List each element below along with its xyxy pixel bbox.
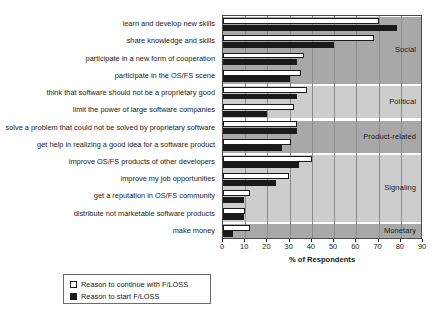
bar-start-5 (223, 111, 267, 117)
y-label-4: think that software should not be a prop… (47, 88, 215, 97)
bar-start-2 (223, 59, 297, 65)
bar-continue-0 (223, 18, 379, 24)
bar-start-0 (223, 25, 397, 31)
bar-start-3 (223, 76, 290, 82)
ticklabel-80: 80 (396, 242, 404, 251)
legend-item-start: Reason to start F/LOSS (70, 290, 210, 302)
bar-start-1 (223, 42, 334, 48)
legend-label-continue: Reason to continue with F/LOSS (81, 280, 188, 289)
bar-continue-6 (223, 121, 297, 127)
bar-start-4 (223, 94, 297, 100)
ticklabel-40: 40 (307, 242, 315, 251)
band-label-social: Social (395, 45, 416, 54)
gridline-70 (379, 16, 380, 238)
ticklabel-90: 90 (418, 242, 426, 251)
x-axis-title: % of Respondents (222, 255, 422, 264)
gridline-60 (356, 16, 357, 238)
bar-continue-7 (223, 139, 291, 145)
y-label-11: distribute not marketable software produ… (74, 209, 215, 218)
band-label-monetary: Monetary (384, 226, 416, 235)
ticklabel-60: 60 (351, 242, 359, 251)
y-axis-labels: learn and develop new skillsshare knowle… (0, 15, 219, 239)
y-label-6: solve a problem that could not be solved… (5, 123, 215, 132)
bar-start-6 (223, 128, 297, 134)
band-label-political: Political (389, 97, 416, 106)
ticklabel-0: 0 (220, 242, 224, 251)
x-axis-ticks: 0102030405060708090 (0, 239, 439, 253)
ticklabel-30: 30 (285, 242, 293, 251)
bar-continue-5 (223, 104, 294, 110)
bar-continue-2 (223, 53, 304, 59)
bar-continue-9 (223, 173, 289, 179)
bar-continue-10 (223, 190, 250, 196)
ticklabel-10: 10 (240, 242, 248, 251)
bar-continue-4 (223, 87, 307, 93)
bar-chart: learn and develop new skillsshare knowle… (0, 0, 439, 316)
plot-area: SocialPoliticalProduct-relatedSignalingM… (222, 15, 422, 239)
bar-start-8 (223, 162, 299, 168)
y-label-5: limit the power of large software compan… (73, 105, 215, 114)
legend-label-start: Reason to start F/LOSS (81, 292, 159, 301)
gridline-40 (312, 16, 313, 238)
bar-continue-11 (223, 208, 245, 214)
legend-swatch-white-icon (70, 281, 77, 288)
band-label-product-related: Product-related (363, 132, 416, 141)
legend: Reason to continue with F/LOSS Reason to… (63, 274, 211, 304)
bar-start-10 (223, 197, 244, 203)
y-label-9: improve my job opportunities (121, 174, 215, 183)
bar-continue-3 (223, 70, 301, 76)
bar-continue-8 (223, 156, 312, 162)
bar-start-9 (223, 180, 276, 186)
ticklabel-20: 20 (262, 242, 270, 251)
ticklabel-50: 50 (329, 242, 337, 251)
y-label-1: share knowledge and skills (127, 36, 215, 45)
gridline-50 (334, 16, 335, 238)
legend-swatch-black-icon (70, 293, 77, 300)
bar-continue-12 (223, 225, 250, 231)
y-label-7: get help in realizing a good idea for a … (37, 140, 215, 149)
y-label-0: learn and develop new skills (123, 19, 215, 28)
band-label-signaling: Signaling (384, 183, 416, 192)
y-label-12: make money (173, 226, 215, 235)
bar-start-7 (223, 145, 282, 151)
y-label-2: participate in a new form of cooperation (86, 54, 215, 63)
legend-item-continue: Reason to continue with F/LOSS (70, 278, 210, 290)
ticklabel-70: 70 (373, 242, 381, 251)
y-label-8: improve OS/FS products of other develope… (69, 157, 215, 166)
y-label-10: get a reputation in OS/FS community (94, 191, 215, 200)
bar-start-11 (223, 214, 244, 220)
bar-continue-1 (223, 35, 374, 41)
y-label-3: participate in the OS/FS scene (115, 71, 215, 80)
bar-start-12 (223, 231, 233, 237)
